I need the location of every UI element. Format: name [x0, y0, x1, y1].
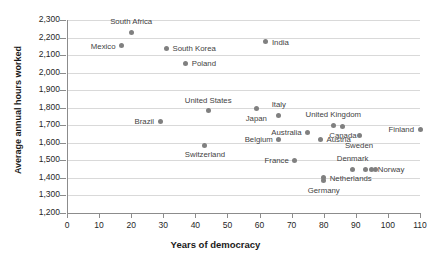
data-point-label: South Korea	[172, 44, 215, 53]
gridline	[67, 55, 420, 56]
data-point[interactable]	[321, 178, 326, 183]
gridline	[67, 90, 420, 91]
x-axis-tick	[67, 213, 68, 218]
y-axis-tick	[60, 195, 66, 196]
x-axis-tick	[131, 213, 132, 218]
x-axis-tick	[195, 213, 196, 218]
data-point[interactable]	[350, 167, 355, 172]
y-axis-tick	[60, 143, 66, 144]
y-axis-title-wrap: Average annual hours worked	[0, 0, 60, 263]
x-axis-tick-label: 10	[84, 220, 114, 230]
y-axis-tick	[60, 20, 66, 21]
data-point-label: United Kingdom	[306, 110, 361, 119]
x-axis-tick	[388, 213, 389, 218]
data-point-label: Brazil	[135, 117, 155, 126]
data-point[interactable]	[263, 39, 268, 44]
data-point[interactable]	[357, 133, 362, 138]
gridline	[67, 38, 420, 39]
data-point[interactable]	[206, 108, 211, 113]
gridline	[67, 195, 420, 196]
data-point-label: Italy	[272, 100, 286, 109]
y-axis-tick	[60, 73, 66, 74]
x-axis-tick-label: 50	[212, 220, 242, 230]
data-point-label: Norway	[378, 165, 404, 174]
data-point[interactable]	[331, 123, 336, 128]
data-point[interactable]	[183, 61, 188, 66]
data-point[interactable]	[292, 158, 297, 163]
data-point-label: France	[265, 156, 289, 165]
data-point[interactable]	[254, 106, 259, 111]
data-point[interactable]	[119, 43, 124, 48]
x-axis-tick-label: 70	[277, 220, 307, 230]
data-point[interactable]	[276, 137, 281, 142]
data-point[interactable]	[129, 30, 134, 35]
x-axis-tick-label: 40	[180, 220, 210, 230]
gridline	[67, 73, 420, 74]
y-axis-tick	[60, 125, 66, 126]
x-axis-tick	[99, 213, 100, 218]
data-point[interactable]	[340, 124, 345, 129]
x-axis-tick-label: 100	[373, 220, 403, 230]
data-point-label: Denmark	[337, 154, 369, 163]
x-axis-tick-label: 20	[116, 220, 146, 230]
data-point[interactable]	[418, 127, 423, 132]
data-point-label: Finland	[388, 125, 414, 134]
y-axis-tick	[60, 108, 66, 109]
y-axis-tick	[60, 178, 66, 179]
gridline	[67, 108, 420, 109]
x-axis-tick	[420, 213, 421, 218]
y-axis-tick	[60, 55, 66, 56]
y-axis-title: Average annual hours worked	[13, 40, 23, 180]
data-point[interactable]	[305, 130, 310, 135]
y-axis-tick	[60, 213, 66, 214]
x-axis-tick-label: 110	[405, 220, 431, 230]
data-point-label: Netherlands	[330, 173, 372, 182]
y-axis-line	[67, 20, 68, 214]
x-axis-title: Years of democracy	[0, 239, 431, 250]
x-axis-tick	[227, 213, 228, 218]
x-axis-tick	[292, 213, 293, 218]
y-axis-tick	[60, 160, 66, 161]
data-point[interactable]	[318, 137, 323, 142]
y-axis-tick	[60, 90, 66, 91]
x-axis-tick-label: 80	[309, 220, 339, 230]
data-point[interactable]	[373, 167, 378, 172]
scatter-chart: South AfricaMexicoSouth KoreaPolandIndia…	[0, 0, 431, 263]
data-point-label: India	[272, 37, 289, 46]
x-axis-tick	[163, 213, 164, 218]
x-axis-tick	[260, 213, 261, 218]
data-point-label: Australia	[271, 128, 301, 137]
data-point-label: Belgium	[245, 135, 273, 144]
data-point[interactable]	[276, 113, 281, 118]
data-point-label: Switzerland	[185, 150, 225, 159]
x-axis-tick	[324, 213, 325, 218]
data-point-label: Austria	[327, 135, 351, 144]
gridline	[67, 125, 420, 126]
data-point-label: South Africa	[110, 17, 152, 26]
data-point[interactable]	[202, 143, 207, 148]
data-point[interactable]	[363, 167, 368, 172]
data-point-label: Poland	[192, 59, 216, 68]
y-axis-tick	[60, 38, 66, 39]
data-point-label: Mexico	[91, 41, 116, 50]
plot-area: South AfricaMexicoSouth KoreaPolandIndia…	[67, 20, 420, 213]
x-axis-tick-label: 60	[245, 220, 275, 230]
x-axis-tick-label: 30	[148, 220, 178, 230]
x-axis-tick	[356, 213, 357, 218]
data-point[interactable]	[164, 46, 169, 51]
data-point-label: United States	[185, 96, 232, 105]
data-point-label: Japan	[246, 114, 267, 123]
data-point-label: Germany	[308, 186, 340, 195]
x-axis-line	[67, 213, 420, 214]
x-axis-tick-label: 90	[341, 220, 371, 230]
data-point[interactable]	[158, 119, 163, 124]
